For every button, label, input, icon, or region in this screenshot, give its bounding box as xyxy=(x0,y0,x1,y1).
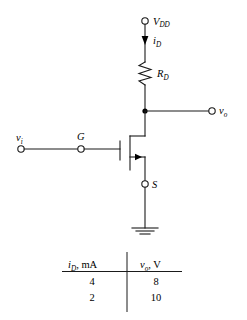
source-arrow xyxy=(135,154,142,160)
figure-labels: VDD iD RD vo vi G S xyxy=(16,16,228,191)
table-row: 2 10 xyxy=(89,292,161,303)
resistor-label: RD xyxy=(156,68,169,82)
output-label: vo xyxy=(219,105,228,119)
vdd-terminal-circle[interactable] xyxy=(142,18,148,24)
source-terminal-circle[interactable] xyxy=(142,181,148,187)
drain-current-arrow xyxy=(142,36,149,45)
gate-input-branch xyxy=(18,146,120,152)
table-cell-current: 2 xyxy=(89,292,94,303)
drain-current-label: iD xyxy=(153,35,162,49)
vdd-branch xyxy=(142,18,149,62)
input-label: vi xyxy=(16,132,23,146)
output-branch xyxy=(142,108,215,114)
table-cell-voltage: 8 xyxy=(153,276,158,287)
gate-node-circle[interactable] xyxy=(78,146,84,152)
source-label: S xyxy=(152,179,158,190)
table-header-current: iD, mA xyxy=(68,259,98,273)
table-cell-voltage: 10 xyxy=(151,292,162,303)
input-terminal-circle[interactable] xyxy=(18,146,24,152)
table-cell-current: 4 xyxy=(89,276,95,287)
resistor-zigzag xyxy=(139,62,151,85)
gate-label: G xyxy=(77,131,85,142)
output-terminal-circle[interactable] xyxy=(209,108,215,114)
circuit-figure: VDD iD RD vo vi G S xyxy=(0,0,247,320)
data-table: iD, mA vo, V 4 8 2 10 xyxy=(62,252,182,312)
drain-resistor xyxy=(139,62,151,111)
vdd-label: VDD xyxy=(153,16,171,30)
mosfet-symbol xyxy=(120,136,145,181)
table-row: 4 8 xyxy=(89,276,158,287)
drain-lead xyxy=(130,111,145,136)
table-header-voltage: vo, V xyxy=(140,259,161,273)
